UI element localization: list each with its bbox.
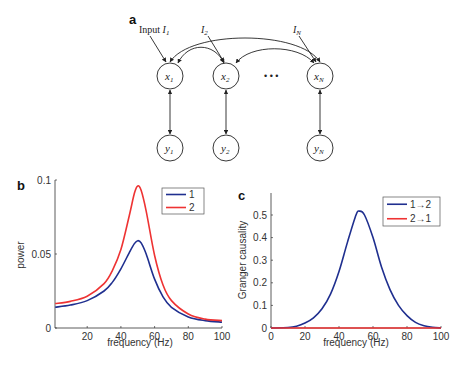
legend-entry: 2→1	[410, 213, 432, 224]
x-tick-label: 100	[433, 331, 450, 342]
y-tick-label: 0.3	[253, 255, 267, 266]
x-tick-label: 80	[401, 331, 413, 342]
y-tick-label: 0.5	[253, 210, 267, 221]
x-tick-label: 20	[82, 331, 94, 342]
x-axis-label: frequency (Hz)	[323, 337, 389, 348]
x-tick-label: 0	[268, 331, 274, 342]
node-x2: x2	[213, 63, 239, 89]
input-arrows	[150, 36, 316, 62]
legend-entry: 1→2	[410, 199, 432, 210]
node-x1: x1	[157, 63, 183, 89]
ellipsis: • • •	[264, 71, 278, 81]
y-tick-label: 0.1	[37, 175, 51, 186]
legend-entry: 2	[189, 202, 195, 213]
y-axis-label: Granger causality	[237, 221, 248, 299]
x-tick-label: 20	[299, 331, 311, 342]
x-tick-label: 100	[214, 331, 231, 342]
y-tick-label: 0	[261, 323, 267, 334]
y-tick-label: 0.05	[32, 249, 52, 260]
node-xn: xN	[307, 63, 333, 89]
x-tick-label: 80	[183, 331, 195, 342]
x-axis-label: frequency (Hz)	[107, 337, 173, 348]
legend-entry: 1	[189, 189, 195, 200]
y-tick-label: 0.1	[253, 300, 267, 311]
observation-arrows	[170, 90, 320, 134]
panel-a-diagram: a Input I1 I2 IN x1 x2	[129, 12, 333, 161]
granger-causality-chart: 00.10.20.30.40.5020406080100frequency (H…	[237, 193, 450, 348]
panel-a-label: a	[129, 12, 137, 27]
power-spectrum-chart: 00.050.120406080100frequency (Hz)power12	[15, 175, 231, 349]
y-tick-label: 0.2	[253, 277, 267, 288]
legend: 1→22→1	[383, 197, 440, 226]
figure: a Input I1 I2 IN x1 x2	[0, 0, 466, 368]
node-y1: y1	[157, 135, 183, 161]
input-label-2: I2	[200, 24, 208, 37]
y-tick-label: 0	[45, 323, 51, 334]
panel-b-label: b	[17, 178, 25, 193]
node-y2: y2	[213, 135, 239, 161]
input-label-n: IN	[292, 24, 301, 37]
y-tick-label: 0.4	[253, 232, 267, 243]
coupling-arcs	[170, 38, 320, 63]
series-line	[55, 241, 222, 322]
legend: 12	[162, 188, 204, 214]
node-yn: yN	[307, 135, 333, 161]
series-line	[271, 211, 441, 328]
y-axis-label: power	[15, 241, 26, 269]
input-label-1: Input I1	[139, 24, 169, 37]
panel-c-label: c	[238, 188, 245, 203]
